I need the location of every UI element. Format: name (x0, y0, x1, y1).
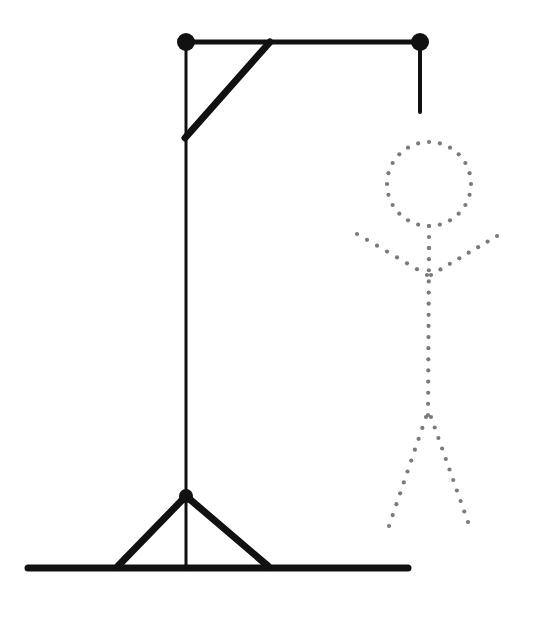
head-dot (448, 218, 452, 222)
leg-left-dot (387, 524, 391, 528)
leg-right-dot (451, 478, 455, 482)
neck-dot (427, 224, 431, 228)
leg-right-dot (462, 509, 466, 513)
head-dot (469, 182, 473, 186)
head-dot (438, 222, 442, 226)
arm-left-dot (365, 238, 369, 242)
node-top-right (411, 33, 429, 51)
torso-dot (427, 290, 431, 294)
head-dot (397, 212, 401, 216)
leg-right-dot (440, 446, 444, 450)
leg-left-dot (424, 415, 428, 419)
head-dot (463, 203, 467, 207)
leg-left-dot (391, 513, 395, 517)
arm-left-dot (375, 244, 379, 248)
torso-dot (426, 324, 430, 328)
head-dot (391, 203, 395, 207)
head-dot (386, 193, 390, 197)
arm-left-dot (395, 255, 399, 259)
arm-left-dot (405, 261, 409, 265)
head-dot (386, 171, 390, 175)
leg-left-dot (398, 491, 402, 495)
leg-right-dot (447, 467, 451, 471)
torso-dot (426, 402, 430, 406)
head-dot (397, 152, 401, 156)
hangman-drawing (0, 0, 533, 620)
head-dot (467, 193, 471, 197)
arm-right-dot (457, 256, 461, 260)
arm-left-dot (355, 232, 359, 236)
torso-dot (427, 279, 431, 283)
arm-right-dot (448, 262, 452, 266)
arm-left-dot (425, 273, 429, 277)
torso-dot (426, 357, 430, 361)
leg-right-dot (429, 415, 433, 419)
leg-right-dot (444, 457, 448, 461)
leg-right-dot (433, 425, 437, 429)
arm-right-dot (495, 234, 499, 238)
head-dot (416, 141, 420, 145)
head-dot (438, 141, 442, 145)
torso-dot (427, 246, 431, 250)
leg-left-dot (409, 459, 413, 463)
leg-left-dot (394, 502, 398, 506)
leg-right-dot (455, 488, 459, 492)
arm-right-dot (485, 239, 489, 243)
torso-dot (427, 268, 431, 272)
torso-dot (426, 335, 430, 339)
torso-dot (426, 368, 430, 372)
head-dot (467, 171, 471, 175)
arm-left-dot (385, 249, 389, 253)
leg-right-dot (459, 499, 463, 503)
head-dot (457, 212, 461, 216)
head-dot (416, 222, 420, 226)
neck-dot (427, 235, 431, 239)
head-dot (457, 152, 461, 156)
node-top-left (177, 33, 195, 51)
head-dot (385, 182, 389, 186)
leg-left-dot (405, 469, 409, 473)
arm-right-dot (467, 251, 471, 255)
leg-left-dot (417, 437, 421, 441)
head-dot (427, 140, 431, 144)
leg-right-dot (466, 520, 470, 524)
head-dot (463, 161, 467, 165)
hangman-canvas (0, 0, 533, 620)
node-base (179, 489, 193, 503)
leg-left-dot (402, 480, 406, 484)
head-dot (391, 161, 395, 165)
torso-dot (426, 391, 430, 395)
head-dot (406, 218, 410, 222)
arm-left-dot (415, 267, 419, 271)
torso-dot (427, 302, 431, 306)
head-dot (406, 146, 410, 150)
leg-left-dot (420, 426, 424, 430)
torso-dot (426, 346, 430, 350)
arm-right-dot (438, 267, 442, 271)
leg-right-dot (436, 436, 440, 440)
arm-right-dot (429, 273, 433, 277)
arm-right-dot (476, 245, 480, 249)
torso-dot (427, 257, 431, 261)
head-dot (448, 146, 452, 150)
leg-left-dot (413, 448, 417, 452)
torso-dot (426, 380, 430, 384)
canvas-background (0, 0, 533, 620)
torso-dot (427, 313, 431, 317)
